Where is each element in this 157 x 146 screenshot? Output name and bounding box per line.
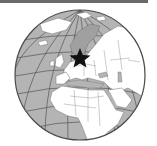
globe-map (0, 0, 157, 146)
